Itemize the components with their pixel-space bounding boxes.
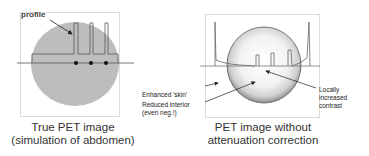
nonac-pet-caption-line2: attenuation correction [198, 134, 328, 147]
true-pet-caption: True PET image (simulation of abdomen) [8, 121, 138, 147]
profile-label: profile [21, 10, 45, 19]
enhanced-skin-label: Enhanced 'skin' [142, 91, 187, 99]
true-pet-caption-line1: True PET image [8, 121, 138, 134]
local-contrast-label-line1: Locally [319, 86, 339, 94]
nonac-pet-caption: PET image without attenuation correction [198, 121, 328, 147]
reduced-interior-label-line1: Reduced interior [142, 101, 190, 109]
enhanced-skin-arrow-icon [205, 83, 218, 86]
nonac-pet-caption-line1: PET image without [198, 121, 328, 134]
local-contrast-label-line3: contrast [319, 102, 342, 110]
reduced-interior-label-line2: (even neg.!) [142, 109, 177, 117]
local-contrast-label-line2: increased [319, 94, 347, 102]
true-pet-caption-line2: (simulation of abdomen) [8, 134, 138, 147]
